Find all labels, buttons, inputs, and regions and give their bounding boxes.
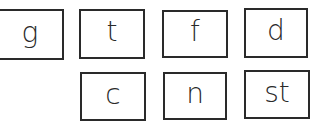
letter-card-n: n: [163, 72, 227, 120]
card-label: n: [186, 80, 204, 108]
card-label: t: [107, 18, 118, 46]
letter-card-d: d: [244, 8, 308, 58]
card-label: d: [267, 17, 285, 45]
card-label: st: [264, 79, 290, 107]
letter-card-f: f: [162, 10, 228, 58]
letter-card-c: c: [80, 72, 146, 121]
card-label: f: [190, 18, 200, 46]
letter-card-t: t: [79, 9, 145, 59]
card-label: g: [22, 19, 39, 47]
letter-card-st: st: [244, 70, 310, 119]
card-label: c: [105, 81, 120, 109]
letter-card-g: g: [0, 9, 64, 60]
